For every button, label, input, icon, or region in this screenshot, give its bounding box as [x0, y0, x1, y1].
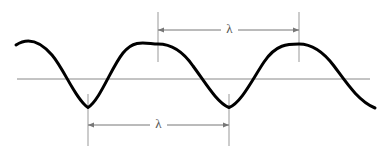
wave-diagram-canvas: λ λ — [0, 0, 383, 149]
wave-diagram: λ λ — [0, 0, 383, 149]
lambda-label-bottom: λ — [155, 116, 162, 131]
sine-wave-curve — [16, 41, 375, 108]
lambda-label-top: λ — [226, 21, 233, 36]
